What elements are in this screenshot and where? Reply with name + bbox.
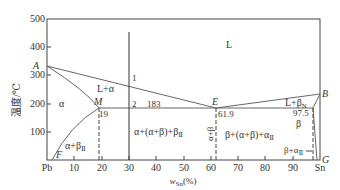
marker-1: 1 xyxy=(132,73,137,83)
y-tick-100: 100 xyxy=(30,126,45,137)
x-tick-40: 40 xyxy=(151,162,161,173)
x-axis-label: wSn(%) xyxy=(170,176,197,188)
value-19: 19 xyxy=(99,109,109,119)
point-F: F xyxy=(55,149,63,160)
solidus-BN xyxy=(313,94,320,108)
point-G: G xyxy=(322,154,329,165)
value-61.9: 61.9 xyxy=(218,109,234,119)
marker-2: 2 xyxy=(132,99,137,109)
region-L: L xyxy=(226,39,232,50)
value-183: 183 xyxy=(147,99,161,109)
region-hypereutectic: β+(α+β)+αⅡ xyxy=(225,129,274,142)
y-tick-200: 200 xyxy=(30,98,45,109)
phase-boundaries xyxy=(47,66,320,160)
x-tick-60: 60 xyxy=(206,162,216,173)
region-L-alpha: L+α xyxy=(97,83,115,94)
x-tick-70: 70 xyxy=(233,162,243,173)
phase-diagram: 500 400 300 200 100 Pb 10 20 30 40 50 60… xyxy=(0,0,340,190)
point-A: A xyxy=(32,60,40,71)
plot-frame xyxy=(47,19,320,160)
x-tick-10: 10 xyxy=(69,162,79,173)
x-tick-50: 50 xyxy=(179,162,189,173)
point-B: B xyxy=(322,88,328,99)
region-alpha-beta-II: α+βⅡ xyxy=(65,140,86,153)
point-E: E xyxy=(211,96,218,107)
x-tick-pb: Pb xyxy=(42,162,53,173)
y-tick-500: 500 xyxy=(30,13,45,24)
y-tick-400: 400 xyxy=(30,41,45,52)
region-alpha: α xyxy=(59,98,65,109)
region-beta-alpha-II: β+αⅡ xyxy=(284,145,303,157)
point-M: M xyxy=(93,96,103,107)
y-axis xyxy=(47,47,51,132)
x-axis xyxy=(74,156,293,160)
pb-sn-phase-diagram-svg: 500 400 300 200 100 Pb 10 20 30 40 50 60… xyxy=(0,0,340,190)
x-tick-30: 30 xyxy=(124,162,134,173)
y-axis-label: 温度/℃ xyxy=(10,83,22,117)
region-eutectic: α+β xyxy=(205,126,215,141)
x-tick-20: 20 xyxy=(97,162,107,173)
solvus-NG xyxy=(313,108,317,160)
x-tick-80: 80 xyxy=(260,162,270,173)
region-hypoeutectic: α+(α+β)+βⅡ xyxy=(134,126,183,139)
region-beta: β xyxy=(296,118,301,129)
x-tick-90: 90 xyxy=(288,162,298,173)
